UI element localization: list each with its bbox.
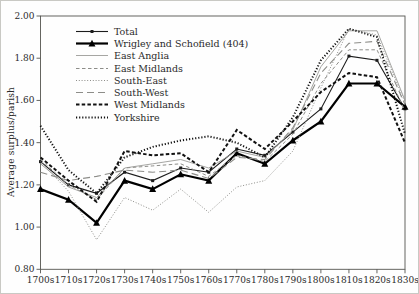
- legend-item: Yorkshire: [75, 111, 248, 123]
- legend-item: Total: [75, 25, 248, 37]
- legend-label: Wrigley and Schofield (404): [114, 38, 248, 49]
- legend-label: East Midlands: [114, 63, 183, 74]
- svg-text:1.80: 1.80: [14, 53, 34, 63]
- svg-text:1820s: 1820s: [363, 275, 391, 285]
- svg-text:1770s: 1770s: [223, 275, 251, 285]
- svg-text:1830s: 1830s: [391, 275, 419, 285]
- svg-text:1780s: 1780s: [251, 275, 279, 285]
- legend-label: Yorkshire: [114, 112, 160, 123]
- legend-line-sample: [75, 27, 109, 36]
- legend-line-sample: [75, 51, 109, 60]
- legend-label: South-East: [114, 75, 167, 86]
- svg-text:1.40: 1.40: [14, 138, 34, 148]
- svg-text:1800s: 1800s: [307, 275, 335, 285]
- legend-line-sample: [75, 100, 109, 109]
- legend-label: East Anglia: [114, 50, 169, 61]
- legend-item: Wrigley and Schofield (404): [75, 37, 248, 49]
- legend-item: West Midlands: [75, 99, 248, 111]
- legend: Total Wrigley and Schofield (404) East A…: [75, 25, 248, 123]
- legend-label: West Midlands: [114, 99, 185, 110]
- svg-text:1700s: 1700s: [27, 275, 55, 285]
- legend-line-sample: [75, 76, 109, 85]
- svg-text:1.00: 1.00: [14, 222, 34, 232]
- legend-item: East Anglia: [75, 50, 248, 62]
- svg-text:1750s: 1750s: [167, 275, 195, 285]
- legend-label: Total: [114, 26, 138, 37]
- legend-line-sample: [75, 64, 109, 73]
- svg-text:1740s: 1740s: [139, 275, 167, 285]
- svg-text:1810s: 1810s: [335, 275, 363, 285]
- legend-item: South-East: [75, 74, 248, 86]
- svg-text:1790s: 1790s: [279, 275, 307, 285]
- legend-item: East Midlands: [75, 62, 248, 74]
- svg-text:1.20: 1.20: [14, 180, 34, 190]
- svg-text:2.00: 2.00: [14, 11, 34, 21]
- legend-line-sample: [75, 88, 109, 97]
- legend-label: South-West: [114, 87, 168, 98]
- svg-text:1730s: 1730s: [111, 275, 139, 285]
- svg-text:1720s: 1720s: [83, 275, 111, 285]
- legend-line-sample: [75, 39, 109, 48]
- svg-text:1.60: 1.60: [14, 95, 34, 105]
- figure: 0.801.001.201.401.601.802.001700s1710s17…: [0, 0, 419, 294]
- svg-text:0.80: 0.80: [14, 264, 34, 274]
- y-axis-label: Average surplus/parish: [6, 87, 16, 197]
- legend-line-sample: [75, 113, 109, 122]
- svg-text:1760s: 1760s: [195, 275, 223, 285]
- legend-item: South-West: [75, 86, 248, 98]
- svg-text:1710s: 1710s: [55, 275, 83, 285]
